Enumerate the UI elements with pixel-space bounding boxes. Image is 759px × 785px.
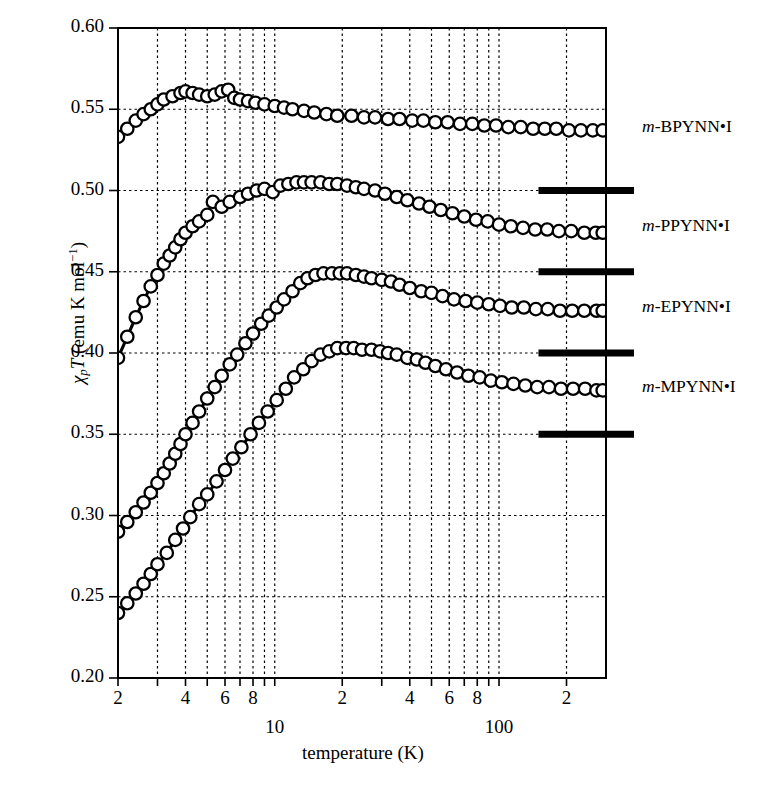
series-label-name: -PPYNN•I bbox=[655, 215, 730, 235]
y-tick-label: 0.45 bbox=[34, 259, 104, 281]
x-axis-title: temperature (K) bbox=[118, 742, 608, 764]
data-point-marker bbox=[454, 118, 466, 130]
data-point-marker bbox=[446, 207, 458, 219]
data-point-marker bbox=[597, 305, 609, 317]
x-tick-label: 4 bbox=[171, 687, 201, 709]
x-tick-label: 2 bbox=[327, 687, 357, 709]
data-point-marker bbox=[530, 303, 542, 315]
y-axis-title-chi: χ bbox=[67, 376, 88, 384]
data-point-marker bbox=[184, 511, 196, 523]
series-label-name: -MPYNN•I bbox=[655, 376, 736, 396]
data-point-marker bbox=[458, 210, 470, 222]
data-point-marker bbox=[145, 280, 157, 292]
data-point-marker bbox=[235, 441, 247, 453]
data-point-marker bbox=[169, 534, 181, 546]
series-label-name: -EPYNN•I bbox=[655, 296, 731, 316]
data-point-marker bbox=[244, 428, 256, 440]
data-point-marker bbox=[517, 222, 529, 234]
data-point-marker bbox=[193, 405, 205, 417]
data-point-marker bbox=[345, 110, 357, 122]
data-point-marker bbox=[121, 331, 133, 343]
data-point-marker bbox=[369, 111, 381, 123]
data-point-marker bbox=[566, 305, 578, 317]
data-point-marker bbox=[553, 225, 565, 237]
data-point-marker bbox=[563, 124, 575, 136]
data-point-marker bbox=[393, 113, 405, 125]
data-point-marker bbox=[210, 475, 222, 487]
data-point-marker bbox=[441, 116, 453, 128]
data-point-marker bbox=[554, 305, 566, 317]
x-tick-label: 8 bbox=[238, 687, 268, 709]
data-point-marker bbox=[459, 295, 471, 307]
data-point-marker bbox=[519, 379, 531, 391]
x-tick-label: 2 bbox=[552, 687, 582, 709]
y-axis-title-unit-close: ) bbox=[67, 242, 88, 248]
figure-panel: χpT (emu K mol−1) temperature (K) 0.600.… bbox=[0, 0, 759, 785]
data-point-marker bbox=[541, 223, 553, 235]
data-point-marker bbox=[597, 384, 609, 396]
series-label-3: m-MPYNN•I bbox=[642, 376, 736, 397]
y-tick-label: 0.35 bbox=[34, 421, 104, 443]
series-label-prefix: m bbox=[642, 116, 655, 136]
data-point-marker bbox=[567, 383, 579, 395]
data-point-marker bbox=[507, 378, 519, 390]
data-point-marker bbox=[466, 118, 478, 130]
data-point-marker bbox=[493, 218, 505, 230]
series-label-2: m-EPYNN•I bbox=[642, 296, 731, 317]
data-point-marker bbox=[261, 405, 273, 417]
data-point-marker bbox=[494, 300, 506, 312]
data-point-marker bbox=[186, 417, 198, 429]
data-point-marker bbox=[531, 381, 543, 393]
x-decade-label: 100 bbox=[474, 716, 524, 738]
data-point-marker bbox=[478, 119, 490, 131]
data-point-marker bbox=[270, 394, 282, 406]
series-label-prefix: m bbox=[642, 215, 655, 235]
data-point-marker bbox=[502, 121, 514, 133]
data-markers-layer bbox=[112, 84, 609, 620]
data-point-marker bbox=[201, 392, 213, 404]
series-label-1: m-PPYNN•I bbox=[642, 215, 730, 236]
data-point-marker bbox=[518, 301, 530, 313]
y-axis-title-subscript: p bbox=[75, 369, 90, 376]
y-tick-label: 0.55 bbox=[34, 96, 104, 118]
x-tick-label: 6 bbox=[210, 687, 240, 709]
data-point-marker bbox=[161, 547, 173, 559]
data-point-marker bbox=[435, 204, 447, 216]
data-point-marker bbox=[529, 223, 541, 235]
y-tick-label: 0.30 bbox=[34, 503, 104, 525]
x-tick-label: 6 bbox=[434, 687, 464, 709]
y-tick-label: 0.40 bbox=[34, 340, 104, 362]
data-point-marker bbox=[216, 370, 228, 382]
data-point-marker bbox=[219, 464, 231, 476]
data-point-marker bbox=[429, 116, 441, 128]
data-point-marker bbox=[448, 293, 460, 305]
data-point-marker bbox=[401, 194, 413, 206]
data-point-marker bbox=[308, 106, 320, 118]
data-point-marker bbox=[550, 123, 562, 135]
x-tick-label: 8 bbox=[462, 687, 492, 709]
data-point-marker bbox=[575, 124, 587, 136]
data-point-marker bbox=[280, 383, 292, 395]
data-point-marker bbox=[490, 119, 502, 131]
data-point-marker bbox=[542, 303, 554, 315]
data-point-marker bbox=[515, 121, 527, 133]
data-point-marker bbox=[209, 381, 221, 393]
y-tick-label: 0.25 bbox=[34, 584, 104, 606]
data-point-marker bbox=[201, 209, 213, 221]
data-point-marker bbox=[253, 417, 265, 429]
series-label-prefix: m bbox=[642, 376, 655, 396]
y-tick-label: 0.50 bbox=[34, 178, 104, 200]
data-point-marker bbox=[179, 428, 191, 440]
data-point-marker bbox=[201, 488, 213, 500]
series-label-name: -BPYNN•I bbox=[655, 116, 732, 136]
y-tick-label: 0.20 bbox=[34, 665, 104, 687]
data-point-marker bbox=[130, 311, 142, 323]
y-tick-label: 0.60 bbox=[34, 15, 104, 37]
data-point-marker bbox=[496, 376, 508, 388]
data-point-marker bbox=[555, 383, 567, 395]
data-point-marker bbox=[379, 188, 391, 200]
data-point-marker bbox=[331, 110, 343, 122]
data-point-marker bbox=[578, 305, 590, 317]
data-point-marker bbox=[227, 452, 239, 464]
data-point-marker bbox=[470, 214, 482, 226]
